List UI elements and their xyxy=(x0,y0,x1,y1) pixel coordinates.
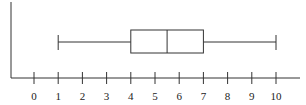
x-tick-label: 4 xyxy=(128,90,134,102)
x-tick-label: 0 xyxy=(31,90,37,102)
x-tick-label: 7 xyxy=(201,90,207,102)
x-tick-label: 9 xyxy=(249,90,255,102)
x-tick-label: 2 xyxy=(80,90,86,102)
box-plot xyxy=(58,30,276,53)
x-tick-label: 8 xyxy=(225,90,231,102)
x-tick-label: 10 xyxy=(271,90,283,102)
x-axis-ticks: 012345678910 xyxy=(31,72,282,102)
x-tick-label: 5 xyxy=(152,90,158,102)
box-plot-chart: 012345678910 xyxy=(0,0,306,105)
x-tick-label: 3 xyxy=(104,90,110,102)
x-tick-label: 1 xyxy=(55,90,61,102)
x-tick-label: 6 xyxy=(176,90,182,102)
